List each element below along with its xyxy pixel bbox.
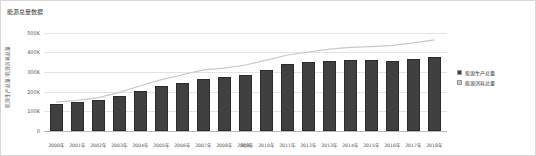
legend-swatch-icon [457,70,462,75]
bar-production[interactable] [407,59,420,131]
legend-item[interactable]: 能源生产总量 [457,69,529,76]
legend-label: 能源消耗总量 [465,79,495,86]
bar-production[interactable] [92,100,105,131]
chart-title: 能源总量数据 [7,7,43,16]
bar-slot [424,23,445,131]
bar-slot [361,23,382,131]
plot-area [44,23,447,131]
x-tick-slot: 2000年 [46,132,67,142]
x-tick-slot: 2006年 [172,132,193,142]
bar-production[interactable] [71,102,84,131]
bar-slot [151,23,172,131]
x-tick-slot: 2002年 [88,132,109,142]
bar-production[interactable] [113,96,126,131]
bar-slot [130,23,151,131]
x-axis-tick-labels: 2000年2001年2002年2003年2004年2005年2006年2007年… [44,132,447,142]
y-tick-label: 200K [27,89,40,95]
y-tick-label: 400K [27,49,40,55]
y-axis-title: 能源生产总量/能源消耗总量 [2,23,12,131]
x-tick-slot: 2012年 [298,132,319,142]
x-tick-slot: 2009年 [235,132,256,142]
bar-slot [319,23,340,131]
bar-production[interactable] [134,91,147,131]
bar-production[interactable] [260,70,273,131]
bar-production[interactable] [323,61,336,131]
y-axis-title-label: 能源生产总量/能源消耗总量 [4,46,10,108]
bar-production[interactable] [176,83,189,131]
x-tick-slot: 2004年 [130,132,151,142]
bar-production[interactable] [281,64,294,131]
y-axis-tick-labels: 0100K200K300K400K500K [17,23,42,131]
bar-production[interactable] [197,79,210,131]
legend-swatch-icon [457,80,462,85]
x-tick-slot: 2017年 [403,132,424,142]
bar-production[interactable] [428,57,441,131]
bar-slot [214,23,235,131]
bar-slot [67,23,88,131]
bar-production[interactable] [365,60,378,131]
bar-slot [403,23,424,131]
bar-slot [277,23,298,131]
x-tick-slot: 2007年 [193,132,214,142]
x-tick-slot: 2018年 [424,132,445,142]
x-tick-slot: 2015年 [361,132,382,142]
bar-slot [235,23,256,131]
bar-slot [109,23,130,131]
bar-production[interactable] [386,61,399,131]
bar-slot [340,23,361,131]
legend-item[interactable]: 能源消耗总量 [457,79,529,86]
bar-slot [256,23,277,131]
bar-slot [382,23,403,131]
bars-layer [44,23,447,131]
bar-slot [298,23,319,131]
x-tick-slot: 2010年 [256,132,277,142]
bar-slot [172,23,193,131]
y-tick-label: 500K [27,30,40,36]
chart-legend: 能源生产总量能源消耗总量 [457,69,529,89]
y-tick-label: 100K [27,108,40,114]
x-tick-slot: 2001年 [67,132,88,142]
x-tick-slot: 2013年 [319,132,340,142]
bar-slot [46,23,67,131]
y-tick-label: 0 [37,128,40,134]
legend-label: 能源生产总量 [465,69,495,76]
x-tick-slot: 2011年 [277,132,298,142]
bar-production[interactable] [239,75,252,131]
y-tick-label: 300K [27,69,40,75]
x-tick-slot: 2014年 [340,132,361,142]
bar-slot [193,23,214,131]
bar-production[interactable] [344,60,357,131]
x-tick-slot: 2005年 [151,132,172,142]
x-tick-slot: 2008年 [214,132,235,142]
bar-production[interactable] [218,77,231,131]
bar-production[interactable] [302,62,315,131]
bar-production[interactable] [155,86,168,131]
x-axis-title: 时间 [44,142,447,148]
x-tick-slot: 2016年 [382,132,403,142]
bar-slot [88,23,109,131]
x-tick-slot: 2003年 [109,132,130,142]
energy-chart-card: 能源总量数据 能源生产总量/能源消耗总量 0100K200K300K400K50… [0,0,536,156]
bar-production[interactable] [50,104,63,131]
